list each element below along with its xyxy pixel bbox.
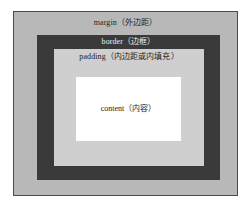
- margin-layer: margin（外边距） border（边框） padding（内边距或内填充） …: [14, 12, 237, 195]
- margin-label: margin（外边距）: [14, 18, 237, 28]
- padding-layer: padding（内边距或内填充） content（内容）: [54, 49, 204, 166]
- box-model-diagram: margin（外边距） border（边框） padding（内边距或内填充） …: [0, 0, 252, 206]
- diagram-outer-frame: margin（外边距） border（边框） padding（内边距或内填充） …: [13, 11, 238, 196]
- content-label: content（内容）: [101, 104, 157, 114]
- padding-label: padding（内边距或内填充）: [54, 52, 204, 62]
- content-layer: content（内容）: [76, 77, 181, 141]
- border-layer: border（边框） padding（内边距或内填充） content（内容）: [37, 35, 220, 180]
- border-label: border（边框）: [37, 37, 220, 47]
